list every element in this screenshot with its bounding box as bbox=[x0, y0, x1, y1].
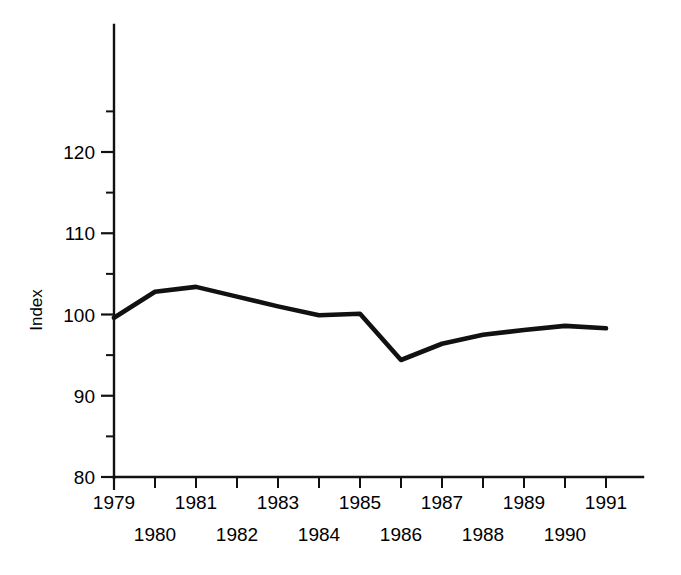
x-tick-label-bottom: 1988 bbox=[462, 524, 504, 545]
x-tick-label-top: 1979 bbox=[93, 492, 135, 513]
chart-background bbox=[0, 0, 681, 575]
y-tick-label: 80 bbox=[74, 467, 95, 488]
y-tick-label: 100 bbox=[63, 305, 95, 326]
x-tick-label-bottom: 1990 bbox=[544, 524, 586, 545]
x-tick-label-top: 1981 bbox=[175, 492, 217, 513]
y-tick-label: 110 bbox=[65, 223, 95, 244]
chart-figure: 8090100110120 Index 19791981198319851987… bbox=[0, 0, 681, 575]
x-tick-label-top: 1983 bbox=[257, 492, 299, 513]
line-chart: 8090100110120 Index 19791981198319851987… bbox=[0, 0, 681, 575]
x-tick-label-bottom: 1986 bbox=[380, 524, 422, 545]
y-tick-label: 90 bbox=[74, 386, 95, 407]
x-tick-label-bottom: 1980 bbox=[134, 524, 176, 545]
x-tick-label-bottom: 1982 bbox=[216, 524, 258, 545]
x-tick-label-top: 1989 bbox=[503, 492, 545, 513]
x-tick-label-top: 1991 bbox=[585, 492, 627, 513]
y-axis-title: Index bbox=[27, 289, 46, 331]
x-tick-label-top: 1985 bbox=[339, 492, 381, 513]
x-tick-label-top: 1987 bbox=[421, 492, 463, 513]
y-tick-label: 120 bbox=[63, 142, 95, 163]
x-tick-label-bottom: 1984 bbox=[298, 524, 341, 545]
